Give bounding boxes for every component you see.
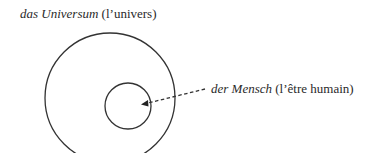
outer-circle-universe xyxy=(45,33,175,153)
diagram-canvas: das Universum (l’univers) der Mensch (l’… xyxy=(0,0,373,153)
universe-term: das Universum xyxy=(20,6,98,21)
label-human: der Mensch (l’être humain) xyxy=(211,82,354,95)
diagram-svg xyxy=(0,0,373,153)
arrowhead-icon xyxy=(141,100,149,107)
label-universe: das Universum (l’univers) xyxy=(20,7,156,20)
inner-circle-human xyxy=(105,83,151,129)
universe-translation: (l’univers) xyxy=(102,6,157,21)
human-term: der Mensch xyxy=(211,81,272,96)
human-translation: (l’être humain) xyxy=(275,81,353,96)
